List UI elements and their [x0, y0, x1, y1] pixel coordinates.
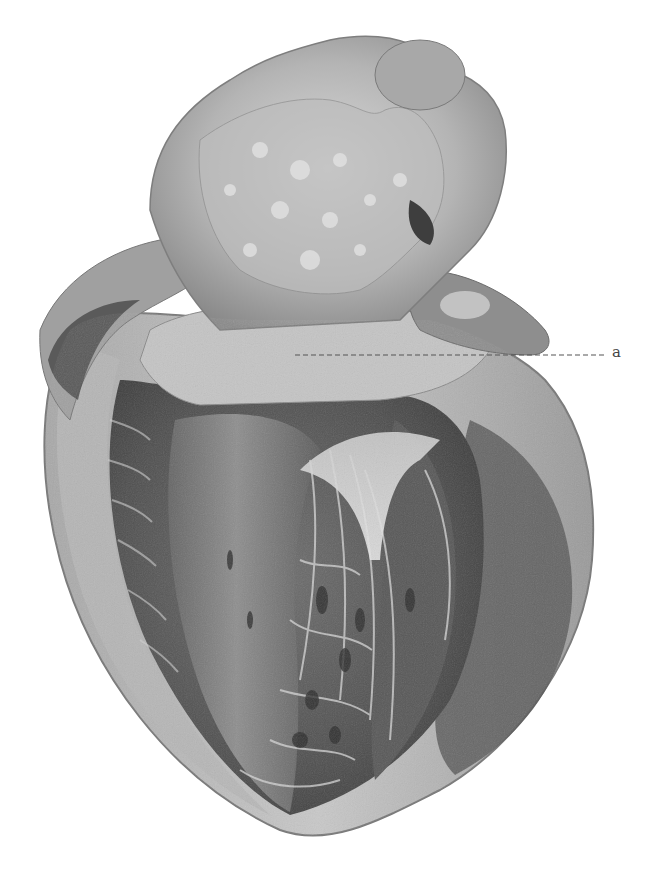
caption-text — [0, 858, 656, 871]
auricle — [375, 40, 465, 110]
right-flap-highlight — [440, 291, 490, 319]
heart-illustration-plate — [0, 0, 656, 871]
annotation-label-a: a — [612, 343, 621, 361]
grain-overlay — [44, 313, 593, 836]
heart-illustration — [0, 0, 656, 871]
